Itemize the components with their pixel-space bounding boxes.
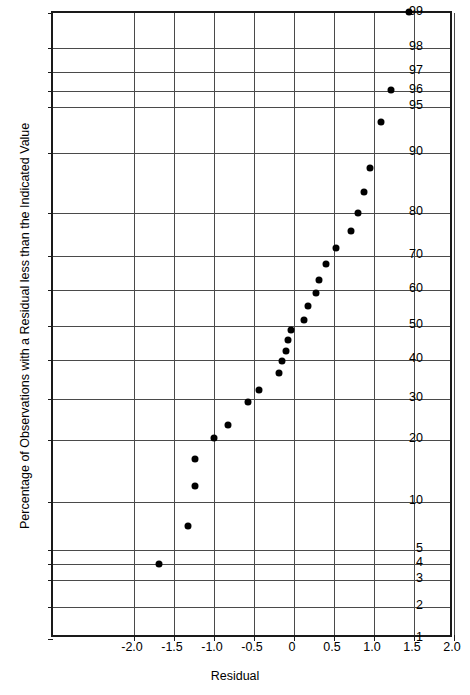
data-point — [355, 210, 362, 217]
data-point — [191, 482, 198, 489]
gridline-horizontal — [53, 48, 450, 49]
gridline-horizontal — [53, 256, 450, 257]
gridline-vertical — [374, 13, 375, 635]
y-tick-label: 3 — [416, 572, 423, 585]
x-tick-label: -0.5 — [241, 641, 263, 654]
gridline-horizontal — [53, 580, 450, 581]
y-tick-label: 70 — [409, 248, 423, 261]
gridline-horizontal — [53, 564, 450, 565]
y-tick-label: 5 — [416, 542, 423, 555]
gridline-horizontal — [53, 502, 450, 503]
y-tick-label: 4 — [416, 556, 423, 569]
y-tick-mark — [48, 607, 53, 608]
data-point — [323, 260, 330, 267]
x-tick-label: 2.0 — [443, 641, 460, 654]
y-tick-mark — [48, 91, 53, 92]
y-tick-label: 20 — [409, 432, 423, 445]
y-tick-mark — [48, 213, 53, 214]
data-point — [315, 277, 322, 284]
data-point — [275, 370, 282, 377]
y-tick-mark — [48, 564, 53, 565]
x-tick-label: 1.5 — [403, 641, 420, 654]
y-tick-label: 96 — [409, 83, 423, 96]
normal-probability-plot: 999897969590807060504030201054321-2.0-1.… — [0, 0, 470, 695]
data-point — [287, 327, 294, 334]
x-tick-label: -2.0 — [121, 641, 143, 654]
gridline-horizontal — [53, 107, 450, 108]
x-axis-title: Residual — [0, 669, 470, 683]
y-tick-label: 80 — [409, 205, 423, 218]
data-point — [367, 164, 374, 171]
data-point — [211, 435, 218, 442]
data-point — [347, 228, 354, 235]
data-point — [312, 289, 319, 296]
gridline-horizontal — [53, 213, 450, 214]
data-point — [279, 358, 286, 365]
y-tick-label: 97 — [409, 64, 423, 77]
y-tick-label: 98 — [409, 40, 423, 53]
x-tick-label: 0 — [289, 641, 296, 654]
y-tick-mark — [48, 72, 53, 73]
y-tick-mark — [48, 440, 53, 441]
gridline-horizontal — [53, 72, 450, 73]
gridline-horizontal — [53, 550, 450, 551]
y-tick-label: 2 — [416, 599, 423, 612]
y-tick-mark — [48, 153, 53, 154]
gridline-vertical — [214, 13, 215, 635]
gridline-vertical — [454, 13, 455, 635]
y-tick-mark — [48, 290, 53, 291]
y-axis-title: Percentage of Observations with a Residu… — [18, 123, 32, 529]
data-point — [300, 317, 307, 324]
gridline-horizontal — [53, 440, 450, 441]
data-point — [155, 560, 162, 567]
gridline-vertical — [174, 13, 175, 635]
data-point — [387, 87, 394, 94]
x-tick-label: -1.0 — [201, 641, 223, 654]
y-tick-mark — [48, 580, 53, 581]
y-tick-label: 30 — [409, 391, 423, 404]
gridline-vertical — [334, 13, 335, 635]
x-tick-label: -1.5 — [161, 641, 183, 654]
data-point — [378, 119, 385, 126]
data-point — [185, 523, 192, 530]
y-tick-label: 40 — [409, 352, 423, 365]
gridline-horizontal — [53, 326, 450, 327]
y-tick-mark — [48, 550, 53, 551]
gridline-vertical — [294, 13, 295, 635]
y-tick-mark — [48, 502, 53, 503]
x-tick-label: 0.5 — [323, 641, 340, 654]
data-point — [245, 398, 252, 405]
y-tick-mark — [48, 256, 53, 257]
y-tick-mark — [48, 360, 53, 361]
y-tick-label: 50 — [409, 318, 423, 331]
data-point — [255, 387, 262, 394]
gridline-horizontal — [53, 153, 450, 154]
y-tick-label: 95 — [409, 99, 423, 112]
x-tick-label: 1.0 — [363, 641, 380, 654]
y-tick-label: 60 — [409, 282, 423, 295]
y-tick-mark — [48, 326, 53, 327]
data-point — [224, 421, 231, 428]
data-point — [332, 245, 339, 252]
gridline-vertical — [254, 13, 255, 635]
y-tick-label: 10 — [409, 494, 423, 507]
gridline-horizontal — [53, 360, 450, 361]
y-tick-mark — [48, 13, 53, 14]
y-tick-label: 99 — [409, 5, 423, 18]
plot-area — [51, 11, 452, 637]
y-tick-label: 90 — [409, 145, 423, 158]
gridline-vertical — [134, 13, 135, 635]
gridline-horizontal — [53, 607, 450, 608]
y-tick-mark — [48, 639, 53, 640]
gridline-horizontal — [53, 290, 450, 291]
y-tick-mark — [48, 48, 53, 49]
data-point — [191, 455, 198, 462]
data-point — [304, 303, 311, 310]
data-point — [361, 189, 368, 196]
data-point — [284, 337, 291, 344]
y-tick-mark — [48, 399, 53, 400]
y-tick-mark — [48, 107, 53, 108]
data-point — [283, 347, 290, 354]
